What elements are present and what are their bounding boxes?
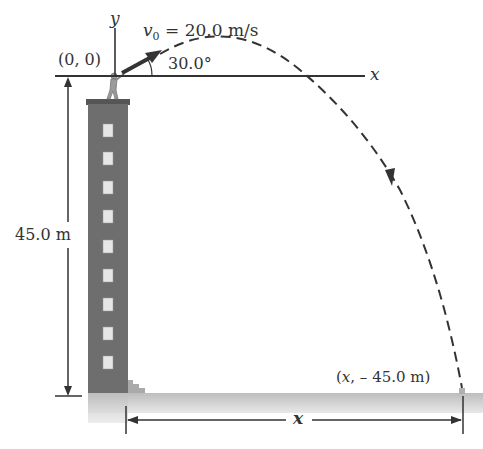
steps bbox=[127, 380, 145, 393]
v0-symbol: v bbox=[143, 20, 153, 40]
x-axis-label: x bbox=[370, 64, 380, 84]
ground-shadow bbox=[88, 393, 128, 423]
origin-label: (0, 0) bbox=[58, 50, 101, 69]
height-arrow-up bbox=[64, 77, 72, 87]
range-arrow-right bbox=[451, 416, 462, 424]
trajectory-path bbox=[160, 36, 462, 388]
ground bbox=[88, 393, 483, 413]
landing-rest: , – 45.0 m) bbox=[350, 368, 430, 386]
range-label: x bbox=[293, 408, 303, 428]
building-windows bbox=[103, 124, 113, 369]
landing-point-label: (x, – 45.0 m) bbox=[336, 368, 430, 386]
initial-velocity-label: v0 = 20.0 m/s bbox=[143, 20, 259, 43]
angle-arc bbox=[148, 60, 152, 76]
landing-marker bbox=[459, 388, 465, 394]
height-label: 45.0 m bbox=[15, 225, 71, 244]
y-axis-label: y bbox=[110, 8, 120, 28]
trajectory-direction-arrow bbox=[385, 168, 395, 186]
v0-value: = 20.0 m/s bbox=[160, 20, 259, 40]
height-arrow-down bbox=[64, 386, 72, 396]
launch-angle-label: 30.0° bbox=[168, 54, 212, 73]
building bbox=[86, 99, 130, 393]
range-arrow-left bbox=[127, 416, 138, 424]
v0-subscript: 0 bbox=[153, 30, 160, 43]
